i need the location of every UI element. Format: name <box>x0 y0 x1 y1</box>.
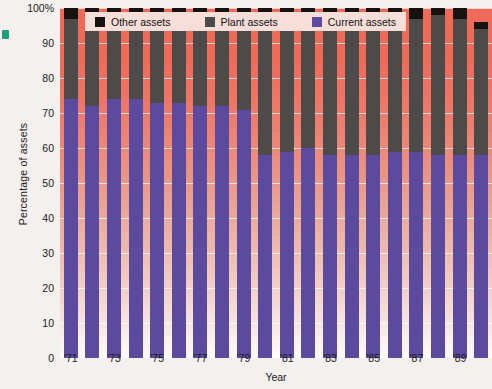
bar-segment-current-assets <box>474 155 488 358</box>
bar <box>172 8 186 358</box>
bar-segment-plant-assets <box>64 19 78 100</box>
bar-segment-current-assets <box>85 106 99 358</box>
bar <box>474 22 488 358</box>
bar <box>388 8 402 358</box>
legend-swatch-icon <box>312 17 322 27</box>
bar-segment-plant-assets <box>215 19 229 107</box>
bar <box>193 8 207 358</box>
bar-segment-plant-assets <box>150 19 164 103</box>
x-tick-label: '75 <box>150 352 164 364</box>
y-tick-label: 80 <box>42 72 54 84</box>
bar-series-group <box>60 8 492 358</box>
chart-legend: Other assetsPlant assetsCurrent assets <box>85 12 406 31</box>
bar-segment-current-assets <box>237 110 251 359</box>
bar <box>258 8 272 358</box>
y-tick-label: 10 <box>42 317 54 329</box>
x-tick-label: '71 <box>64 352 78 364</box>
legend-item: Current assets <box>312 16 396 28</box>
bar <box>107 8 121 358</box>
bar-segment-plant-assets <box>237 19 251 110</box>
bar <box>431 8 445 358</box>
y-tick-label: 90 <box>42 37 54 49</box>
bar-segment-current-assets <box>301 148 315 358</box>
bar <box>301 8 315 358</box>
bar-segment-plant-assets <box>323 15 337 155</box>
bar-segment-current-assets <box>150 103 164 359</box>
bar <box>280 8 294 358</box>
bar-segment-current-assets <box>64 99 78 358</box>
bar-segment-current-assets <box>193 106 207 358</box>
x-tick-label: '85 <box>366 352 380 364</box>
bar-segment-plant-assets <box>172 19 186 103</box>
bar-segment-other-assets <box>431 8 445 15</box>
bar-segment-current-assets <box>323 155 337 358</box>
bar-segment-current-assets <box>215 106 229 358</box>
bar-segment-plant-assets <box>258 15 272 155</box>
y-tick-label: 0 <box>48 352 54 364</box>
bar-segment-current-assets <box>107 99 121 358</box>
bar-segment-current-assets <box>258 155 272 358</box>
bar-segment-plant-assets <box>301 15 315 148</box>
bar-segment-plant-assets <box>366 15 380 155</box>
bar-segment-current-assets <box>453 155 467 358</box>
bar-segment-plant-assets <box>280 15 294 152</box>
bar-segment-plant-assets <box>474 29 488 155</box>
bar-segment-current-assets <box>280 152 294 359</box>
bar <box>323 8 337 358</box>
x-tick-label: '81 <box>280 352 294 364</box>
legend-swatch-icon <box>95 17 105 27</box>
bar-segment-other-assets <box>64 8 78 19</box>
legend-item: Plant assets <box>205 16 278 28</box>
chart-screenshot: Percentage of assets 0102030405060708090… <box>0 0 492 389</box>
bar-segment-plant-assets <box>431 15 445 155</box>
bar-segment-current-assets <box>366 155 380 358</box>
bar-segment-plant-assets <box>388 19 402 152</box>
plot-area <box>60 8 492 358</box>
x-tick-label: '79 <box>237 352 251 364</box>
legend-swatch-icon <box>205 17 215 27</box>
bar-segment-other-assets <box>453 8 467 19</box>
bar <box>64 8 78 358</box>
x-tick-label: '87 <box>410 352 424 364</box>
bar-segment-current-assets <box>172 103 186 359</box>
legend-label: Plant assets <box>221 16 278 28</box>
y-tick-label: 60 <box>42 142 54 154</box>
legend-label: Current assets <box>328 16 396 28</box>
y-tick-label: 100% <box>27 2 54 14</box>
bar <box>453 8 467 358</box>
bar <box>237 8 251 358</box>
bar <box>85 8 99 358</box>
y-axis-tick-labels: 0102030405060708090100% <box>0 0 60 389</box>
legend-label: Other assets <box>111 16 171 28</box>
legend-item: Other assets <box>95 16 171 28</box>
bar-segment-other-assets <box>409 8 423 19</box>
bar-segment-plant-assets <box>85 19 99 107</box>
y-tick-label: 40 <box>42 212 54 224</box>
x-tick-label: '83 <box>323 352 337 364</box>
x-axis-title: Year <box>60 371 492 383</box>
bar-segment-current-assets <box>129 99 143 358</box>
y-tick-label: 70 <box>42 107 54 119</box>
bar-segment-current-assets <box>388 152 402 359</box>
bar-segment-current-assets <box>431 155 445 358</box>
bar <box>150 8 164 358</box>
bar <box>215 8 229 358</box>
bar <box>129 8 143 358</box>
bar-segment-current-assets <box>345 155 359 358</box>
bar-segment-current-assets <box>409 152 423 359</box>
x-tick-label: '73 <box>107 352 121 364</box>
x-tick-label: '89 <box>453 352 467 364</box>
bar <box>345 8 359 358</box>
x-axis-tick-labels: '71'73'75'77'79'81'83'85'87'89 <box>60 352 492 370</box>
bar <box>409 8 423 358</box>
bar-segment-other-assets <box>474 22 488 29</box>
bar-segment-plant-assets <box>453 19 467 156</box>
y-tick-label: 20 <box>42 282 54 294</box>
x-tick-label: '77 <box>194 352 208 364</box>
bar-segment-plant-assets <box>409 19 423 152</box>
bar-segment-plant-assets <box>345 15 359 155</box>
bar <box>366 8 380 358</box>
y-tick-label: 30 <box>42 247 54 259</box>
y-tick-label: 50 <box>42 177 54 189</box>
